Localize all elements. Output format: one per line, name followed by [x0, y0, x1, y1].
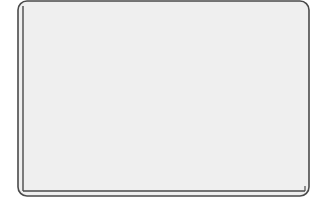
decay-curve-chart — [0, 0, 328, 219]
chart-panel — [18, 1, 309, 196]
